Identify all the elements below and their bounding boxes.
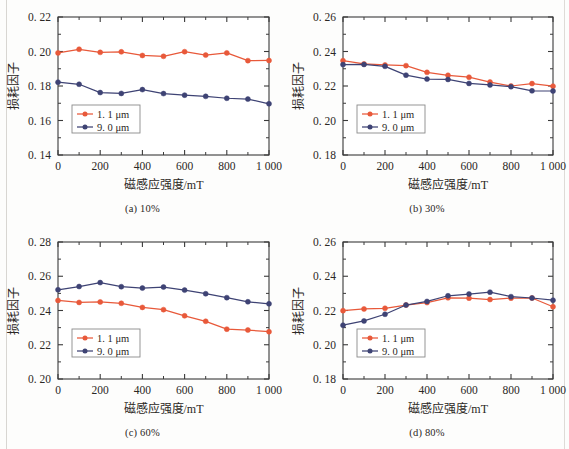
legend: 1. 1 μm9. 0 μm bbox=[72, 105, 140, 133]
data-point bbox=[182, 313, 187, 318]
data-point bbox=[77, 300, 82, 305]
data-point bbox=[161, 307, 166, 312]
x-tick-label: 200 bbox=[376, 160, 394, 172]
data-point bbox=[203, 94, 208, 99]
data-point bbox=[509, 84, 514, 89]
y-tick-label: 0. 20 bbox=[28, 46, 51, 58]
data-point bbox=[98, 280, 103, 285]
y-tick-label: 0. 18 bbox=[28, 80, 51, 92]
data-point bbox=[56, 287, 61, 292]
y-axis-label: 损耗因子 bbox=[7, 287, 21, 335]
legend-label-2: 9. 0 μm bbox=[97, 122, 129, 133]
x-tick-label: 800 bbox=[502, 384, 520, 396]
x-tick-label: 600 bbox=[176, 384, 194, 396]
legend-label-2: 9. 0 μm bbox=[382, 122, 414, 133]
data-point bbox=[383, 64, 388, 69]
plot-frame bbox=[58, 17, 269, 155]
y-tick-label: 0. 24 bbox=[313, 270, 336, 282]
x-tick-label: 400 bbox=[134, 384, 152, 396]
data-point bbox=[551, 298, 556, 303]
data-point bbox=[98, 50, 103, 55]
data-point bbox=[530, 81, 535, 86]
data-point bbox=[203, 319, 208, 324]
legend-marker-1 bbox=[368, 112, 373, 117]
y-axis-label: 损耗因子 bbox=[7, 62, 21, 110]
x-tick-label: 600 bbox=[460, 384, 478, 396]
x-tick-label: 200 bbox=[92, 160, 110, 172]
data-point bbox=[425, 70, 430, 75]
y-tick-label: 0. 28 bbox=[28, 236, 51, 248]
data-point bbox=[267, 101, 272, 106]
legend-marker-2 bbox=[368, 125, 373, 130]
y-tick-label: 0. 26 bbox=[313, 236, 336, 248]
data-point bbox=[530, 88, 535, 93]
data-point bbox=[140, 87, 145, 92]
data-point bbox=[488, 82, 493, 87]
data-point bbox=[161, 91, 166, 96]
x-tick-label: 0 bbox=[340, 160, 346, 172]
y-tick-label: 0. 22 bbox=[28, 11, 51, 23]
legend-marker-2 bbox=[83, 125, 88, 130]
data-point bbox=[245, 328, 250, 333]
data-point bbox=[98, 299, 103, 304]
data-point bbox=[182, 93, 187, 98]
data-point bbox=[530, 296, 535, 301]
legend-marker-1 bbox=[83, 112, 88, 117]
y-tick-label: 0. 22 bbox=[313, 80, 336, 92]
data-point bbox=[77, 284, 82, 289]
y-tick-label: 0. 18 bbox=[313, 149, 336, 161]
data-point bbox=[509, 294, 514, 299]
data-point bbox=[119, 301, 124, 306]
x-tick-label: 800 bbox=[502, 160, 520, 172]
data-point bbox=[245, 97, 250, 102]
data-point bbox=[203, 53, 208, 58]
data-point bbox=[467, 292, 472, 297]
data-point bbox=[362, 306, 367, 311]
x-tick-label: 200 bbox=[376, 384, 394, 396]
y-tick-label: 0. 18 bbox=[313, 373, 336, 385]
data-point bbox=[425, 77, 430, 82]
data-point bbox=[267, 301, 272, 306]
legend-label-2: 9. 0 μm bbox=[97, 346, 129, 357]
data-point bbox=[56, 298, 61, 303]
data-point bbox=[224, 50, 229, 55]
data-point bbox=[161, 285, 166, 290]
figure-page: 0. 140. 160. 180. 200. 2202004006008001 … bbox=[0, 0, 569, 449]
subplot-caption-d: (d) 80% bbox=[285, 427, 569, 438]
data-point bbox=[119, 49, 124, 54]
data-point bbox=[446, 77, 451, 82]
legend: 1. 1 μm9. 0 μm bbox=[72, 329, 140, 357]
data-point bbox=[341, 62, 346, 67]
legend-marker-2 bbox=[368, 349, 373, 354]
data-point bbox=[267, 58, 272, 63]
x-tick-label: 400 bbox=[134, 160, 152, 172]
data-point bbox=[245, 299, 250, 304]
data-point bbox=[77, 82, 82, 87]
data-point bbox=[446, 293, 451, 298]
legend-label-2: 9. 0 μm bbox=[382, 346, 414, 357]
y-axis-label: 损耗因子 bbox=[292, 287, 306, 335]
data-point bbox=[161, 54, 166, 59]
x-tick-label: 0 bbox=[340, 384, 346, 396]
subplot-caption-c: (c) 60% bbox=[0, 427, 285, 438]
x-tick-label: 1 000 bbox=[256, 160, 282, 172]
data-point bbox=[362, 62, 367, 67]
legend-label-1: 1. 1 μm bbox=[97, 109, 129, 120]
data-point bbox=[467, 81, 472, 86]
data-point bbox=[140, 305, 145, 310]
legend-label-1: 1. 1 μm bbox=[382, 333, 414, 344]
plot-frame bbox=[343, 17, 553, 155]
x-axis-label: 磁感应强度/mT bbox=[124, 177, 205, 192]
legend-label-1: 1. 1 μm bbox=[382, 109, 414, 120]
data-point bbox=[383, 312, 388, 317]
x-tick-label: 600 bbox=[460, 160, 478, 172]
data-point bbox=[140, 53, 145, 58]
legend-marker-1 bbox=[368, 336, 373, 341]
legend: 1. 1 μm9. 0 μm bbox=[357, 105, 425, 133]
legend-marker-2 bbox=[83, 349, 88, 354]
data-point bbox=[404, 63, 409, 68]
subplot-caption-a: (a) 10% bbox=[0, 203, 285, 214]
x-tick-label: 0 bbox=[55, 160, 61, 172]
data-point bbox=[140, 286, 145, 291]
data-point bbox=[404, 303, 409, 308]
